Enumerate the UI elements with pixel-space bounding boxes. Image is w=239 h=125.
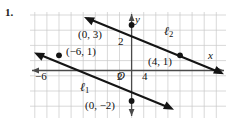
grid-vertical xyxy=(35,12,217,118)
point-label-4-1: (4, 1) xyxy=(148,56,172,67)
y-axis-label: y xyxy=(135,14,140,25)
problem-number: 1. xyxy=(5,6,13,18)
line-label-l1: ℓ1 xyxy=(80,81,89,95)
line-l1-arrow-left xyxy=(34,53,45,61)
line-label-l1-sub: 1 xyxy=(85,85,89,95)
line-label-l2: ℓ2 xyxy=(164,25,173,39)
point-neg6-1 xyxy=(56,52,62,58)
grid-horizontal xyxy=(30,15,226,106)
graph-svg xyxy=(30,12,226,118)
point-label-neg6-1: (−6, 1) xyxy=(66,46,96,57)
origin-label: O xyxy=(117,70,125,81)
line-l1-arrow-right xyxy=(163,102,174,110)
point-label-0-neg2: (0, −2) xyxy=(85,100,115,111)
axes xyxy=(32,14,224,116)
figure-root: 1. xyxy=(0,0,239,125)
line-label-l2-sub: 2 xyxy=(169,29,173,39)
line-l2-arrow-left xyxy=(84,17,95,25)
x-tick-label-4: 4 xyxy=(142,71,148,82)
point-0-3 xyxy=(129,22,135,28)
coordinate-graph: (0, 3) (−6, 1) (4, 1) (0, −2) ℓ2 ℓ1 x y … xyxy=(30,12,226,118)
y-axis-arrow-down xyxy=(129,109,135,116)
point-label-0-3: (0, 3) xyxy=(78,29,102,40)
point-0-neg2 xyxy=(129,98,135,104)
y-tick-label-2: 2 xyxy=(118,36,124,47)
point-4-1 xyxy=(177,52,183,58)
x-tick-label-neg6: −6 xyxy=(35,71,47,82)
x-axis-label: x xyxy=(208,50,213,61)
